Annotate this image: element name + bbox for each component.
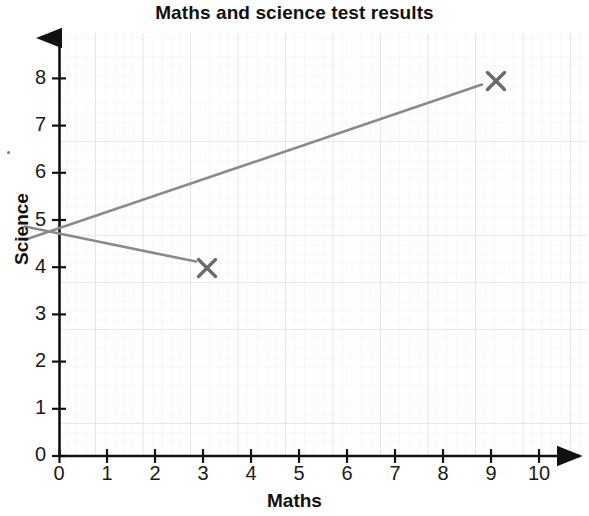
chart-canvas: Maths and science test results xyxy=(0,0,589,516)
grid-layer xyxy=(59,33,587,456)
x-axis-label: Maths xyxy=(0,490,589,512)
y-tick-label-0: 0 xyxy=(20,443,46,466)
x-tick-label-8: 8 xyxy=(428,462,458,485)
x-tick-label-7: 7 xyxy=(380,462,410,485)
plot-area xyxy=(0,0,589,516)
y-tick-label-8: 8 xyxy=(20,66,46,89)
x-tick-label-9: 9 xyxy=(476,462,506,485)
y-tick-label-2: 2 xyxy=(20,349,46,372)
x-tick-label-6: 6 xyxy=(332,462,362,485)
x-tick-label-4: 4 xyxy=(236,462,266,485)
x-tick-label-2: 2 xyxy=(140,462,170,485)
y-tick-label-7: 7 xyxy=(20,113,46,136)
y-axis-label: Science xyxy=(11,169,33,289)
y-tick-label-1: 1 xyxy=(20,396,46,419)
x-tick-label-0: 0 xyxy=(44,462,74,485)
x-tick-label-5: 5 xyxy=(284,462,314,485)
x-tick-label-10: 10 xyxy=(524,462,554,485)
x-tick-label-3: 3 xyxy=(188,462,218,485)
x-tick-label-1: 1 xyxy=(92,462,122,485)
y-tick-label-3: 3 xyxy=(20,302,46,325)
scan-artifact-speck xyxy=(7,151,10,154)
